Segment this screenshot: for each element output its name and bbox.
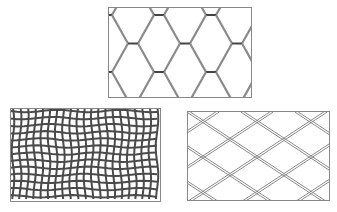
woven-square-mesh-illustration (10, 108, 161, 202)
chain-link-mesh-illustration (187, 111, 330, 201)
woven-square-mesh-panel (10, 108, 161, 202)
chain-link-mesh-panel (187, 111, 330, 201)
hexagonal-mesh-panel (108, 7, 252, 98)
hexagonal-mesh-illustration (108, 7, 252, 98)
